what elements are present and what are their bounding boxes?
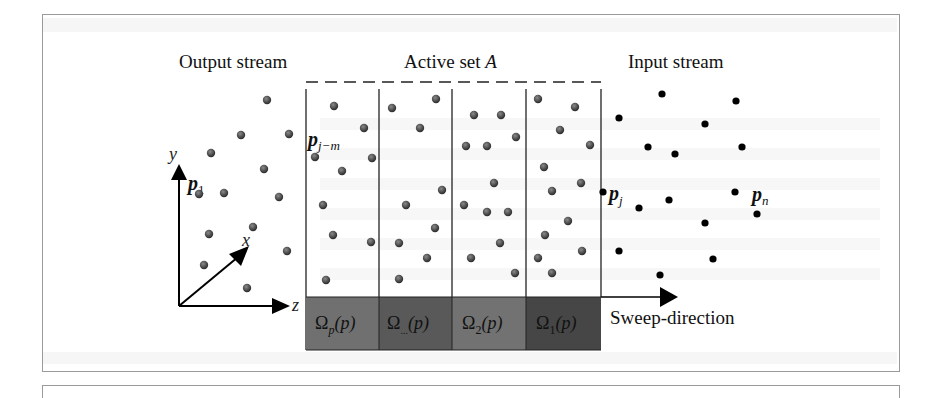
coordinate-axes: y z x (167, 144, 299, 315)
output-stream-points (195, 96, 293, 292)
omega-label-dots: Ω...(p) (387, 313, 429, 336)
pjm-label: pj−m (306, 128, 340, 153)
y-axis-arrow-icon (171, 164, 187, 180)
y-axis-label: y (167, 144, 177, 164)
sweep-diagram: Output stream Active set A Input stream … (0, 0, 938, 398)
x-axis-label: x (241, 230, 250, 250)
z-axis-label: z (291, 295, 299, 315)
input-stream-label: Input stream (628, 51, 724, 72)
z-axis-arrow-icon (272, 298, 290, 314)
output-stream-label: Output stream (179, 51, 287, 72)
active-set-label: Active set A (404, 51, 497, 72)
sweep-direction-label: Sweep-direction (610, 307, 735, 328)
sweep-arrow-head (660, 287, 678, 307)
